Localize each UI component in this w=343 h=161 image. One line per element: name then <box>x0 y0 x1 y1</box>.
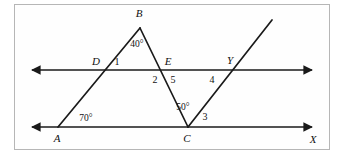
point-label-b: B <box>136 8 143 19</box>
point-label-d: D <box>92 56 100 67</box>
point-label-c: C <box>183 133 190 144</box>
geometry-figure: A B C D E Y X 40° 70° 50° 1 2 5 4 3 <box>0 0 343 161</box>
angle-measure-50: 50° <box>176 103 189 113</box>
angle-number-3: 3 <box>203 112 208 122</box>
angle-measure-70: 70° <box>79 114 92 124</box>
point-label-e: E <box>165 56 172 67</box>
angle-number-1: 1 <box>115 57 120 67</box>
angle-number-4: 4 <box>210 75 215 85</box>
angle-number-2: 2 <box>153 75 158 85</box>
angle-measure-40: 40° <box>130 40 143 50</box>
point-label-a: A <box>54 133 61 144</box>
point-label-y: Y <box>227 55 233 66</box>
segment-ab <box>58 28 140 127</box>
angle-number-5: 5 <box>171 75 176 85</box>
point-label-x: X <box>310 134 317 145</box>
ray-cy <box>188 20 272 127</box>
